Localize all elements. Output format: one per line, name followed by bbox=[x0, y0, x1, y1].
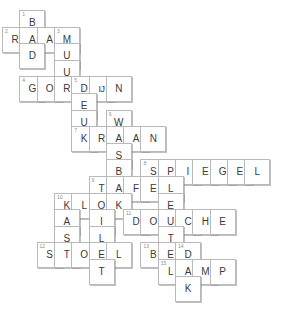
cell-number: 14 bbox=[178, 244, 184, 249]
crossword-cell[interactable]: N bbox=[106, 76, 132, 102]
cell-letter: K bbox=[176, 284, 200, 294]
cell-number: 12 bbox=[40, 244, 46, 249]
cell-number: 11 bbox=[126, 211, 131, 216]
crossword-cell[interactable]: T bbox=[89, 259, 115, 285]
crossword-cell[interactable]: N bbox=[140, 126, 166, 152]
cell-number: 7 bbox=[74, 128, 77, 133]
crossword-cell[interactable]: L bbox=[244, 159, 270, 185]
cell-number: 2 bbox=[5, 29, 8, 34]
crossword-grid: 1B2RAA3MDUU4GOR5DIJNEU6W7KRAANSB8SPIEGEL… bbox=[0, 0, 286, 328]
cell-number: 4 bbox=[22, 78, 25, 83]
crossword-cell[interactable]: P bbox=[210, 259, 236, 285]
cell-letter: P bbox=[211, 267, 235, 277]
cell-letter: N bbox=[141, 134, 165, 144]
cell-letter: N bbox=[107, 84, 131, 94]
crossword-cell[interactable]: K bbox=[175, 276, 201, 302]
cell-number: 1 bbox=[22, 12, 25, 17]
crossword-cell[interactable]: D bbox=[19, 43, 45, 69]
cell-number: 9 bbox=[92, 178, 95, 183]
cell-letter: T bbox=[90, 267, 114, 277]
cell-number: 13 bbox=[143, 244, 149, 249]
cell-letter: L bbox=[245, 167, 269, 177]
cell-number: 8 bbox=[143, 161, 146, 166]
cell-number: 10 bbox=[57, 195, 63, 200]
cell-number: 6 bbox=[109, 112, 112, 117]
cell-number: 3 bbox=[57, 29, 60, 34]
crossword-cell[interactable]: E bbox=[210, 209, 236, 235]
cell-number: 15 bbox=[161, 261, 167, 266]
cell-letter: E bbox=[211, 217, 235, 227]
cell-number: 5 bbox=[74, 78, 77, 83]
cell-letter: D bbox=[20, 51, 44, 61]
